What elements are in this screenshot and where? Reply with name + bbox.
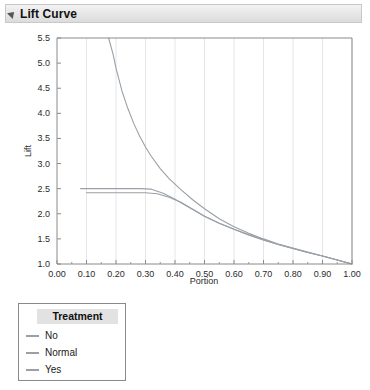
legend-title: Treatment (37, 309, 118, 324)
legend-item-label: Normal (45, 348, 77, 358)
svg-text:0.60: 0.60 (225, 269, 243, 279)
legend-swatch-icon (26, 369, 39, 371)
legend-item-yes[interactable]: Yes (19, 361, 125, 378)
svg-text:1.0: 1.0 (37, 259, 50, 269)
y-axis-title: Lift (23, 145, 33, 158)
legend-entries: NoNormalYes (19, 327, 125, 378)
legend-item-label: No (45, 331, 58, 341)
svg-text:3.0: 3.0 (37, 159, 50, 169)
svg-text:0.10: 0.10 (78, 269, 96, 279)
svg-text:0.90: 0.90 (314, 269, 332, 279)
legend-item-no[interactable]: No (19, 327, 125, 344)
legend-item-label: Yes (45, 365, 61, 375)
svg-text:2.5: 2.5 (37, 184, 50, 194)
svg-text:5.0: 5.0 (37, 58, 50, 68)
svg-text:5.5: 5.5 (37, 33, 50, 43)
svg-text:3.5: 3.5 (37, 133, 50, 143)
legend-swatch-icon (26, 335, 39, 337)
svg-text:1.00: 1.00 (343, 269, 361, 279)
lift-curve-chart: 1.01.52.02.53.03.54.04.55.05.5 0.000.100… (0, 26, 370, 286)
svg-text:4.5: 4.5 (37, 83, 50, 93)
legend-item-normal[interactable]: Normal (19, 344, 125, 361)
svg-text:0.30: 0.30 (137, 269, 155, 279)
svg-text:4.0: 4.0 (37, 108, 50, 118)
triangle-collapse-icon[interactable] (7, 9, 17, 19)
chart-series-lines (81, 38, 352, 264)
legend-swatch-icon (26, 352, 39, 354)
svg-text:0.40: 0.40 (166, 269, 184, 279)
svg-text:1.5: 1.5 (37, 234, 50, 244)
svg-text:0.80: 0.80 (284, 269, 302, 279)
svg-text:0.00: 0.00 (48, 269, 66, 279)
x-axis-title: Portion (190, 276, 219, 286)
svg-text:0.70: 0.70 (255, 269, 273, 279)
svg-text:0.20: 0.20 (107, 269, 125, 279)
svg-text:2.0: 2.0 (37, 209, 50, 219)
panel-header[interactable]: Lift Curve (5, 4, 362, 23)
chart-gridlines (87, 38, 353, 264)
chart-legend: Treatment NoNormalYes (18, 303, 126, 381)
page-title: Lift Curve (20, 8, 77, 20)
chart-canvas: 1.01.52.02.53.03.54.04.55.05.5 0.000.100… (0, 26, 370, 286)
